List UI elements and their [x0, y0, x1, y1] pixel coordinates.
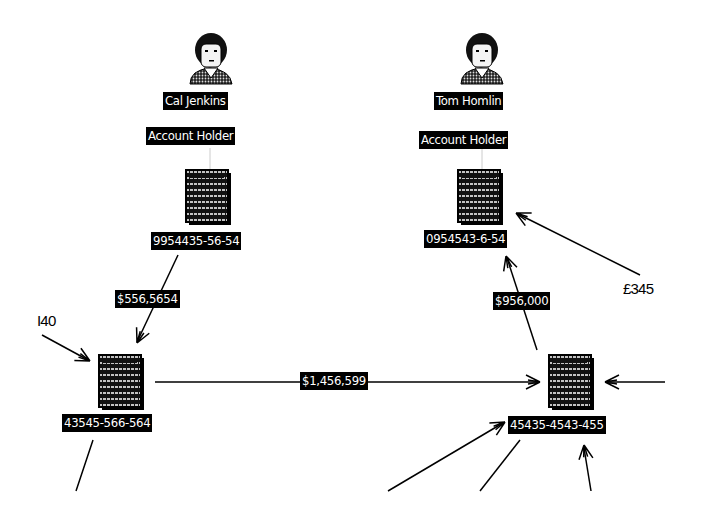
account-number-label[interactable]: 0954543-6-54: [424, 230, 507, 248]
edge-bottom-to-a4-2[interactable]: [480, 440, 520, 491]
person-role-label: Account Holder: [146, 127, 235, 145]
link-diagram-canvas: [0, 0, 701, 519]
person-name-label[interactable]: Tom Homlin: [434, 92, 503, 110]
account-number-label[interactable]: 9954435-56-54: [151, 232, 241, 250]
ledger-document-icon[interactable]: [99, 355, 144, 410]
transfer-amount-label[interactable]: $1,456,599: [300, 372, 368, 390]
account-number-label[interactable]: 43545-566-564: [62, 414, 152, 432]
ledger-document-icon[interactable]: [458, 170, 503, 225]
transfer-amount-text[interactable]: I40: [37, 312, 55, 329]
transfer-amount-text[interactable]: £345: [623, 280, 653, 297]
transfer-amount-label[interactable]: $556,5654: [115, 290, 180, 308]
transfer-amount-label[interactable]: $956,000: [493, 292, 550, 310]
ledger-document-icon[interactable]: [186, 170, 231, 225]
ledger-document-icon[interactable]: [549, 355, 594, 410]
edge-right-to-a4[interactable]: [605, 375, 665, 389]
edge-bottom-to-a4-1[interactable]: [388, 416, 509, 491]
person-role-label: Account Holder: [419, 131, 508, 149]
edge-bottom-to-a4-3[interactable]: [577, 444, 593, 491]
person-icon[interactable]: [461, 33, 503, 84]
edge-a3-outbound[interactable]: [76, 440, 93, 491]
person-name-label[interactable]: Cal Jenkins: [163, 92, 228, 110]
edge-external-to-a2[interactable]: [513, 207, 640, 275]
edge-external-to-a3[interactable]: [42, 335, 93, 367]
account-number-label[interactable]: 45435-4543-455: [508, 416, 606, 434]
person-icon[interactable]: [190, 33, 232, 84]
